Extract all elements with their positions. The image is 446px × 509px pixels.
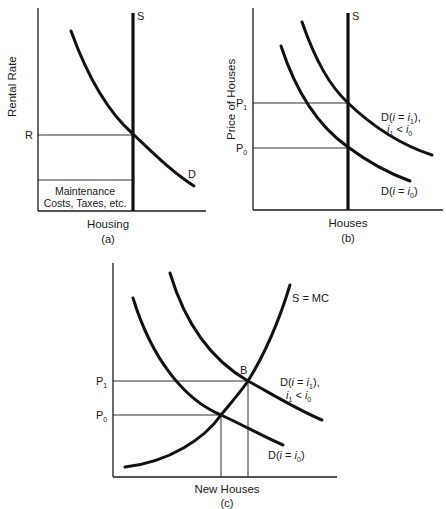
panel-c-p0-label: P0 <box>96 409 107 423</box>
panel-a-rent-label: R <box>25 129 33 141</box>
housing-market-diagram: Rental Rate R S D Maintenance Costs, Tax… <box>0 0 446 509</box>
panel-a-x-axis-label: Housing <box>87 218 129 230</box>
panel-a-supply-label: S <box>137 10 144 22</box>
panel-c-demand-i1-label-line1: D(i = i1), <box>280 376 320 390</box>
panel-c-new-construction-market: P1 P0 B S = MC D(i = i1), i1 < i0 D(i = … <box>96 263 337 509</box>
panel-a-y-axis-label: Rental Rate <box>6 56 18 117</box>
panel-c-x-axis-label: New Houses <box>194 483 259 495</box>
panel-b-demand-i1-label-line2: i1 < i0 <box>387 123 412 137</box>
panel-b-supply-label: S <box>352 10 359 22</box>
panel-a-rental-market: Rental Rate R S D Maintenance Costs, Tax… <box>6 8 206 245</box>
panel-c-demand-curve-i0 <box>133 298 283 445</box>
panel-b-house-price-market: Price of Houses P1 P0 S D(i = i1), i1 < … <box>225 8 443 244</box>
panel-b-p0-label: P0 <box>236 142 247 156</box>
panel-b-demand-curve-i1 <box>302 22 432 155</box>
panel-c-p1-label: P1 <box>96 375 107 389</box>
panel-c-demand-i1-label-line2: i1 < i0 <box>286 389 311 403</box>
panel-c-point-b-label: B <box>240 364 247 376</box>
panel-a-caption: (a) <box>101 233 114 245</box>
panel-a-maintenance-label-line1: Maintenance <box>55 185 115 197</box>
panel-a-demand-label: D <box>188 168 196 180</box>
panel-c-supply-label: S = MC <box>292 292 329 304</box>
panel-b-demand-i0-label: D(i = i0) <box>381 185 418 199</box>
panel-c-supply-mc-curve <box>125 285 290 467</box>
panel-c-demand-i0-label: D(i = i0) <box>268 449 305 463</box>
panel-a-maintenance-label-line2: Costs, Taxes, etc. <box>44 197 127 209</box>
panel-b-p1-label: P1 <box>236 97 247 111</box>
panel-b-caption: (b) <box>341 232 354 244</box>
panel-c-caption: (c) <box>221 497 234 509</box>
panel-b-x-axis-label: Houses <box>329 217 368 229</box>
